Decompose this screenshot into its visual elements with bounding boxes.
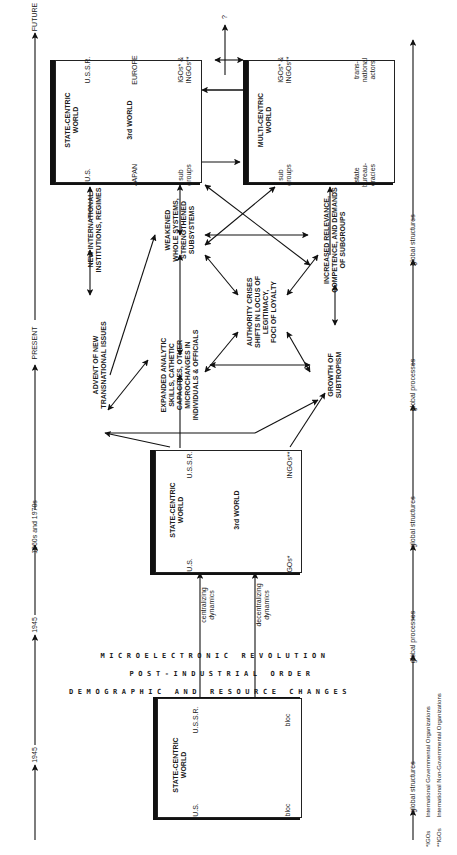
- node-igos-ingos: IGOs* & INGOs**: [277, 57, 293, 84]
- node-state-bureaucracies: state bureau- cracies: [353, 163, 377, 187]
- axis-label-5: global structures: [409, 214, 417, 265]
- process-weakened: WEAKENED WHOLE SYSTEMS, STRENGTHENED SUB…: [164, 198, 196, 261]
- node-bloc-ussr: bloc: [284, 714, 292, 727]
- footnote-mark: **IGOs: [436, 819, 442, 847]
- node-transnational-actors: trans- national actors: [353, 58, 377, 83]
- footnote-ingos: **IGOs International Non-Governmental Or…: [436, 693, 442, 847]
- axis-label-4: global processes: [409, 359, 417, 412]
- diagram-canvas: 1945 1945 1960s and 1970s PRESENT FUTURE…: [0, 0, 457, 855]
- node-igos: IGOs*: [286, 555, 294, 574]
- process-authority: AUTHORITY CRISES SHIFTS IN LOCUS OF LEGI…: [246, 276, 278, 348]
- transition-post-industrial: POST-INDUSTRIAL ORDER: [129, 670, 314, 678]
- box-1945-title: STATE-CENTRIC WORLD: [172, 737, 188, 792]
- axis-label-1: global structures: [409, 761, 417, 812]
- footnote-mark: *IGOs: [425, 819, 431, 847]
- transition-microelectronic: MICROELECTRONIC REVOLUTION: [100, 652, 329, 660]
- node-us: U.S.: [186, 558, 194, 572]
- node-ussr: U.S.S.R.: [192, 706, 200, 733]
- node-bloc-us: bloc: [284, 804, 292, 817]
- box-1960s-title: STATE-CENTRIC WORLD: [169, 482, 185, 537]
- timeline-label-1960s: 1960s and 1970s: [31, 500, 39, 554]
- axis-label-2: global processes: [409, 611, 417, 664]
- footnote-igos: *IGOs International Governmental Organiz…: [425, 706, 431, 847]
- transition-demographic: DEMOGRAPHIC AND RESOURCE CHANGES: [69, 688, 351, 696]
- node-igos-ingos: IGOs* & INGOs**: [177, 57, 193, 84]
- node-ingos: INGOs**: [286, 452, 294, 479]
- node-3rd-world: 3rd WORLD: [126, 100, 134, 139]
- node-us: U.S.: [84, 168, 92, 182]
- box-future-state-title: STATE-CENTRIC WORLD: [64, 92, 80, 147]
- node-ussr: U.S.S.R.: [186, 451, 194, 478]
- process-subtropism: GROWTH OF SUBTROPISM: [327, 352, 343, 399]
- axis-label-3: global structures: [409, 496, 417, 547]
- timeline-label-present: PRESENT: [31, 326, 39, 359]
- process-new-institutions: NEW INTERNATIONAL INSTITUTIONS, REGIMES: [87, 188, 103, 273]
- node-japan: JAPAN: [131, 164, 139, 186]
- node-3rd-world: 3rd WORLD: [233, 490, 241, 529]
- box-multi-centric-title: MULTI-CENTRIC WORLD: [257, 93, 273, 147]
- node-us: U.S.: [192, 803, 200, 817]
- process-expanded-skills: EXPANDED ANALYTIC SKILLS, CATHETIC CAPAC…: [160, 330, 200, 421]
- node-subgroups: sub groups: [277, 164, 293, 185]
- decentralizing-label: decentralizing dynamics: [255, 583, 271, 626]
- footnote-text: International Non-Governmental Organizat…: [436, 693, 442, 817]
- node-europe: EUROPE: [131, 55, 139, 85]
- node-ussr: U.S.S.R.: [84, 56, 92, 83]
- process-advent: ADVENT OF NEW TRANSNATIONAL ISSUES: [92, 321, 108, 408]
- footnote-text: International Governmental Organizations: [425, 706, 431, 817]
- timeline-label-1945b: 1945: [31, 617, 39, 633]
- timeline-label-1945a: 1945: [31, 747, 39, 763]
- unknown-future-mark: ?: [221, 15, 229, 19]
- timeline-label-future: FUTURE: [31, 3, 39, 31]
- process-relevance: INCREASED RELEVANCE, COMPETENCE, AND DEM…: [323, 187, 347, 293]
- centralizing-label: centralizing dynamics: [200, 587, 216, 622]
- node-subgroups: sub groups: [177, 164, 193, 185]
